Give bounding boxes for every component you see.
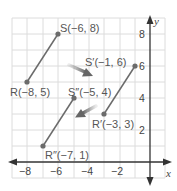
coordinate-plane: x −8 −6 −4 −2 y 8 6 4 2 S(−6, 8) R(−8, 5… [0,0,177,191]
y-axis-up-arrow-icon [147,15,154,24]
y-tick-2: 2 [139,124,145,136]
point-r-prime [101,111,106,116]
x-axis: x −8 −6 −4 −2 [8,159,172,180]
label-r: R(−8, 5) [10,86,50,98]
x-tick-neg4: −4 [81,165,93,177]
x-tick-neg6: −6 [50,165,62,177]
y-tick-4: 4 [139,92,145,104]
y-tick-6: 6 [139,60,145,72]
point-r [24,79,29,84]
translation-arrow-2 [75,106,96,118]
label-r-prime: R′(−3, 3) [92,118,134,130]
label-s: S(−6, 8) [60,22,99,34]
label-r-double-prime: R″(−7, 1) [45,149,89,161]
y-tick-8: 8 [139,28,145,40]
label-s-double-prime: S″(−5, 4) [68,86,111,98]
point-r-double-prime [40,143,45,148]
x-axis-right-arrow-icon [163,159,172,166]
x-axis-label: x [165,167,171,179]
y-axis-label: y [153,15,159,27]
point-s-prime [132,63,137,68]
label-s-prime: S′(−1, 6) [85,56,127,68]
y-axis-down-arrow-icon [147,177,154,186]
x-tick-neg8: −8 [19,165,31,177]
y-axis: y 8 6 4 2 [139,15,159,186]
x-tick-neg2: −2 [111,165,123,177]
